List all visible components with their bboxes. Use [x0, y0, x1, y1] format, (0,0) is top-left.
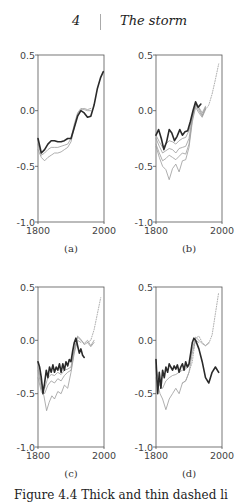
data-series-line: [206, 64, 219, 110]
y-tick-label: 0.5: [20, 50, 35, 61]
figure-caption: Figure 4.4 Thick and thin dashed li: [14, 488, 228, 502]
data-series-line: [38, 338, 84, 394]
data-series-line: [156, 107, 206, 179]
data-series-line: [156, 102, 201, 150]
x-tick-label: 1800: [144, 225, 168, 236]
y-tick-label: 0.5: [20, 282, 35, 293]
y-tick-label: -0.5: [16, 161, 35, 172]
x-tick-label: 2000: [92, 450, 116, 461]
y-tick-label: 0.5: [138, 282, 153, 293]
data-series-line: [88, 298, 101, 343]
y-tick-label: -0.5: [134, 388, 153, 399]
x-tick-label: 1800: [144, 450, 168, 461]
x-tick-label: 2000: [92, 225, 116, 236]
panel-label: (d): [182, 468, 196, 479]
data-series-line: [38, 72, 103, 153]
data-series-line: [38, 340, 81, 410]
panel-label: (b): [182, 243, 196, 254]
x-tick-label: 2000: [210, 450, 234, 461]
x-tick-label: 1800: [26, 225, 50, 236]
chart-panel-c: 0.50.0-0.5-1.018002000(c): [16, 282, 116, 480]
y-tick-label: 0.5: [138, 50, 153, 61]
y-tick-label: -0.5: [16, 388, 35, 399]
data-series-line: [38, 108, 91, 160]
panel-label: (a): [64, 243, 78, 254]
panel-label: (c): [64, 468, 78, 479]
x-tick-label: 2000: [210, 225, 234, 236]
chart-panel-b: 0.50.0-0.5-1.018002000(b): [134, 50, 234, 255]
y-tick-label: 0.0: [138, 335, 153, 346]
x-tick-label: 1800: [26, 450, 50, 461]
y-tick-label: -0.5: [134, 161, 153, 172]
y-tick-label: 0.0: [20, 105, 35, 116]
chart-panel-a: 0.50.0-0.5-1.018002000(a): [16, 50, 116, 255]
data-series-line: [156, 338, 219, 394]
y-tick-label: 0.0: [138, 105, 153, 116]
chart-panel-d: 0.50.0-0.5-1.018002000(d): [134, 282, 234, 480]
y-tick-label: 0.0: [20, 335, 35, 346]
data-series-line: [156, 337, 209, 388]
